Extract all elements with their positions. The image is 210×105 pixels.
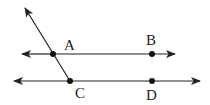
point-A: [50, 51, 56, 57]
label-D: D: [146, 87, 157, 103]
label-B: B: [146, 32, 156, 48]
point-C: [67, 78, 73, 84]
label-C: C: [75, 85, 85, 101]
point-B: [149, 51, 155, 57]
point-D: [149, 78, 155, 84]
geometry-diagram: A B C D: [0, 0, 210, 105]
label-A: A: [64, 37, 75, 53]
